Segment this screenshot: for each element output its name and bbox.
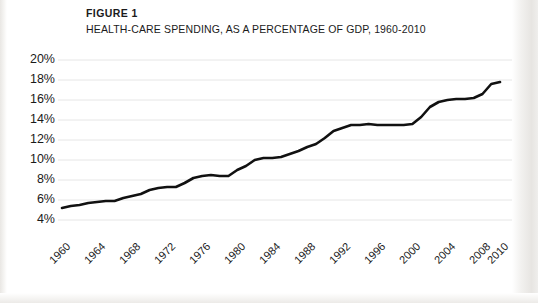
y-axis-tick-label: 14% <box>11 112 55 126</box>
figure-page: FIGURE 1 HEALTH-CARE SPENDING, AS A PERC… <box>0 0 538 303</box>
chart-data-line <box>62 82 500 208</box>
y-axis-tick-label: 8% <box>11 172 55 186</box>
y-axis-tick-label: 16% <box>11 92 55 106</box>
chart-plot-area: 20%18%16%14%12%10%8%6%4% 196019641968197… <box>0 0 538 303</box>
series-line <box>62 82 500 208</box>
y-axis-tick-label: 4% <box>11 212 55 226</box>
y-axis-tick-label: 18% <box>11 72 55 86</box>
y-axis-tick-label: 6% <box>11 192 55 206</box>
y-axis-tick-label: 12% <box>11 132 55 146</box>
chart-gridlines <box>58 60 512 220</box>
y-axis-tick-label: 10% <box>11 152 55 166</box>
y-axis-tick-label: 20% <box>11 52 55 66</box>
